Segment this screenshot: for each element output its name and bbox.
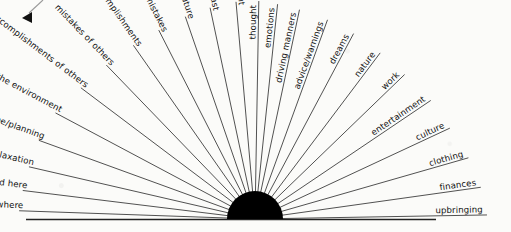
spoke-label: culture (414, 120, 446, 142)
spoke-label: past (208, 0, 222, 12)
spoke-line (281, 215, 487, 219)
spoke-label: thought (248, 4, 259, 39)
spoke-line (210, 8, 250, 194)
spoke-label: nature (352, 50, 377, 79)
spoke-label: accomplishments (92, 0, 145, 49)
spoke-line (271, 53, 381, 198)
annotation-arrow (22, 0, 43, 23)
spoke-line (39, 140, 231, 210)
spoke-label: see elsewhere (0, 198, 24, 210)
spoke-label-group: upbringingfinancesclothingcultureenterta… (0, 0, 483, 215)
spoke-label: clothing (428, 149, 465, 168)
spoke-line (81, 88, 234, 204)
spoke-label: advice/warnings (292, 20, 326, 91)
spoke-line (279, 128, 450, 208)
spoke-label: emotions (262, 7, 276, 49)
spoke-label: mistakes (143, 0, 170, 34)
spoke-label: relaxation (0, 147, 35, 167)
spoke-line (106, 65, 237, 200)
spoke-line (133, 45, 240, 197)
spoke-label: daily routine/planning (0, 99, 46, 141)
hub-semicircle (227, 191, 283, 219)
spoke-label: future (179, 0, 197, 20)
spoke-label: not mentioned here (0, 170, 28, 191)
radial-fan-diagram: upbringingfinancesclothingcultureenterta… (0, 0, 511, 232)
spoke-label: mistakes of others (53, 2, 117, 68)
spoke-line (185, 17, 246, 195)
spoke-label: upbringing (435, 204, 483, 215)
spoke-line (159, 30, 243, 196)
spoke-line (277, 100, 431, 204)
spoke-line (55, 113, 232, 207)
